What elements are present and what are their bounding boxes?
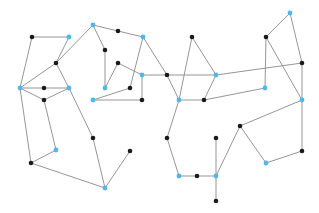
graph-node-black bbox=[91, 136, 96, 141]
graph-edge bbox=[56, 25, 93, 63]
graph-node-black bbox=[300, 61, 305, 66]
graph-node-blue bbox=[91, 98, 96, 103]
graph-edge bbox=[20, 37, 32, 88]
graph-edge bbox=[192, 37, 216, 75]
graph-edge bbox=[118, 31, 143, 37]
graph-node-black bbox=[103, 48, 108, 53]
graph-edge bbox=[93, 88, 130, 100]
graph-edge bbox=[216, 126, 240, 176]
graph-edge bbox=[105, 151, 130, 188]
graph-node-black bbox=[29, 161, 34, 166]
graph-node-blue bbox=[103, 86, 108, 91]
graph-edge bbox=[204, 75, 216, 100]
graph-node-black bbox=[165, 73, 170, 78]
graph-node-blue bbox=[300, 98, 305, 103]
graph-edge bbox=[216, 63, 302, 75]
graph-node-black bbox=[264, 35, 269, 40]
graph-node-black bbox=[128, 149, 133, 154]
graph-edge bbox=[105, 63, 118, 88]
graph-node-blue bbox=[103, 186, 108, 191]
graph-edge bbox=[290, 13, 302, 63]
graph-node-blue bbox=[288, 11, 293, 16]
graph-node-blue bbox=[214, 174, 219, 179]
graph-edge bbox=[240, 100, 302, 126]
graph-node-black bbox=[140, 98, 145, 103]
graph-edge bbox=[69, 88, 93, 138]
graph-edge bbox=[167, 75, 179, 100]
graph-edge bbox=[266, 37, 302, 100]
graph-node-black bbox=[42, 86, 47, 91]
graph-node-black bbox=[195, 174, 200, 179]
graph-node-blue bbox=[18, 86, 23, 91]
graph-edge bbox=[93, 138, 105, 188]
graph-edge bbox=[31, 150, 56, 163]
graph-edge bbox=[266, 151, 302, 163]
graph-node-blue bbox=[67, 35, 72, 40]
graph-node-black bbox=[165, 136, 170, 141]
graph-node-black bbox=[214, 136, 219, 141]
graph-node-black bbox=[190, 35, 195, 40]
graph-edge bbox=[44, 100, 56, 150]
graph-edge bbox=[93, 25, 105, 50]
graph-edge bbox=[56, 37, 69, 63]
graph-node-black bbox=[54, 61, 59, 66]
graph-node-black bbox=[42, 98, 47, 103]
graph-edge bbox=[20, 88, 44, 100]
nodes-layer bbox=[18, 11, 305, 204]
graph-edge bbox=[44, 88, 69, 100]
graph-edge bbox=[143, 37, 167, 75]
graph-edge bbox=[31, 163, 105, 188]
graph-edge bbox=[265, 37, 266, 88]
graph-node-black bbox=[300, 149, 305, 154]
edges-layer bbox=[20, 13, 302, 201]
graph-node-blue bbox=[140, 73, 145, 78]
graph-edge bbox=[93, 25, 118, 31]
graph-node-black bbox=[214, 199, 219, 204]
graph-node-black bbox=[116, 29, 121, 34]
graph-edge bbox=[266, 13, 290, 37]
graph-node-black bbox=[128, 86, 133, 91]
graph-node-blue bbox=[91, 23, 96, 28]
graph-node-blue bbox=[214, 73, 219, 78]
graph-edge bbox=[56, 63, 69, 88]
graph-edge bbox=[118, 63, 142, 75]
graph-node-blue bbox=[54, 148, 59, 153]
graph-node-blue bbox=[141, 35, 146, 40]
graph-node-black bbox=[116, 61, 121, 66]
graph-edge bbox=[179, 37, 192, 100]
graph-node-blue bbox=[177, 98, 182, 103]
graph-node-blue bbox=[263, 86, 268, 91]
graph-node-blue bbox=[177, 174, 182, 179]
graph-edge bbox=[130, 37, 143, 88]
graph-node-blue bbox=[264, 161, 269, 166]
graph-edge bbox=[240, 126, 266, 163]
graph-edge bbox=[167, 138, 179, 176]
graph-node-black bbox=[202, 98, 207, 103]
graph-node-blue bbox=[67, 86, 72, 91]
graph-edge bbox=[167, 100, 179, 138]
graph-node-black bbox=[238, 124, 243, 129]
graph-node-black bbox=[30, 35, 35, 40]
network-graph bbox=[0, 0, 319, 213]
graph-edge bbox=[204, 88, 265, 100]
graph-edge bbox=[20, 88, 31, 163]
